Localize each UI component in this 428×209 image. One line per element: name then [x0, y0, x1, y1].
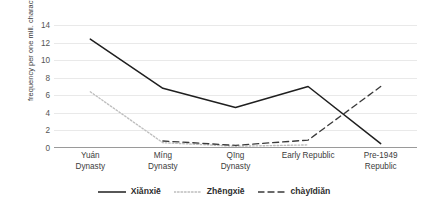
series-line	[90, 39, 380, 144]
x-axis-tick-label: MíngDynasty	[148, 151, 178, 172]
x-axis-tick-labels: YuánDynastyMíngDynastyQīngDynastyEarly R…	[54, 151, 417, 181]
x-axis-tick-label-line: Pre-1949	[364, 151, 398, 162]
x-axis-tick-label-line: Republic	[364, 162, 398, 173]
y-axis-tick-label: 10	[41, 56, 50, 65]
y-axis-tick-label: 8	[45, 73, 50, 82]
x-axis-tick-label-line: Míng	[148, 151, 178, 162]
y-axis-tick-label: 6	[45, 91, 50, 100]
x-axis-tick-label-line: Dynasty	[76, 162, 106, 173]
y-axis-tick-label: 12	[41, 38, 50, 47]
series-line	[90, 92, 308, 146]
y-axis-tick-label: 4	[45, 108, 50, 117]
plot-area	[54, 25, 417, 148]
series-lines	[54, 25, 417, 148]
legend-line-swatch	[174, 187, 202, 196]
legend-line-swatch	[98, 187, 126, 196]
legend-item[interactable]: Zhēngxiē	[174, 186, 245, 196]
legend-label: chàyīdiǎn	[291, 186, 331, 196]
x-axis-tick-label: Pre-1949Republic	[364, 151, 398, 172]
legend-item[interactable]: chàyīdiǎn	[258, 186, 331, 196]
y-axis-tick-label: 0	[45, 144, 50, 153]
legend-line-swatch	[258, 187, 286, 196]
legend-label: Xiǎnxiē	[131, 186, 161, 196]
legend: XiǎnxiēZhēngxiēchàyīdiǎn	[0, 186, 428, 196]
x-axis-tick-label-line: Yuán	[76, 151, 106, 162]
line-chart: frequency per one mill. characters 02468…	[0, 0, 428, 209]
x-axis-tick-label-line: Dynasty	[221, 162, 251, 173]
y-axis-tick-label: 14	[41, 21, 50, 30]
x-axis-tick-label-line: Qīng	[221, 151, 251, 162]
y-axis-tick-labels: 02468101214	[28, 0, 50, 209]
legend-item[interactable]: Xiǎnxiē	[98, 186, 161, 196]
x-axis-tick-label: YuánDynasty	[76, 151, 106, 172]
x-axis-tick-label: Early Republic	[282, 151, 335, 162]
x-axis-tick-label-line: Early Republic	[282, 151, 335, 162]
series-line	[163, 87, 381, 146]
x-axis-tick-label-line: Dynasty	[148, 162, 178, 173]
x-axis-tick-label: QīngDynasty	[221, 151, 251, 172]
y-axis-tick-label: 2	[45, 126, 50, 135]
legend-label: Zhēngxiē	[207, 186, 245, 196]
